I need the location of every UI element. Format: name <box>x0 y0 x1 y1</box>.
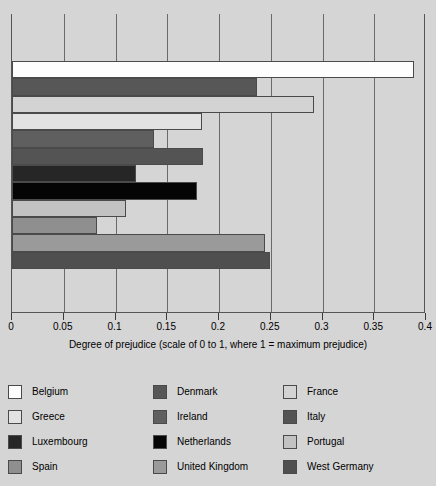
tick-mark <box>218 313 219 320</box>
legend-item-greece[interactable]: Greece <box>8 404 148 429</box>
legend-label: United Kingdom <box>177 461 248 473</box>
legend-swatch-icon <box>153 435 167 449</box>
bar-row <box>12 165 424 182</box>
bar-italy[interactable] <box>12 148 203 165</box>
legend-swatch-icon <box>153 410 167 424</box>
bar-west-germany[interactable] <box>12 252 270 269</box>
x-tick-label: 0.3 <box>315 321 329 333</box>
bar-row <box>12 96 424 113</box>
bar-portugal[interactable] <box>12 200 126 217</box>
bar-row <box>12 61 424 78</box>
bar-netherlands[interactable] <box>12 182 197 199</box>
bar-greece[interactable] <box>12 113 202 130</box>
legend-swatch-icon <box>283 385 297 399</box>
legend-item-italy[interactable]: Italy <box>283 404 423 429</box>
x-tick-label: 0.15 <box>157 321 176 333</box>
bar-ireland[interactable] <box>12 130 154 147</box>
legend-label: West Germany <box>307 461 374 473</box>
legend-item-belgium[interactable]: Belgium <box>8 379 148 404</box>
bar-row <box>12 113 424 130</box>
tick-mark <box>11 313 12 320</box>
legend-item-west-germany[interactable]: West Germany <box>283 454 423 479</box>
bar-denmark[interactable] <box>12 78 257 95</box>
legend-item-ireland[interactable]: Ireland <box>153 404 293 429</box>
x-axis-tick-marks <box>11 313 425 320</box>
x-axis-title: Degree of prejudice (scale of 0 to 1, wh… <box>0 339 436 351</box>
x-tick-label: 0.25 <box>260 321 279 333</box>
x-tick-label: 0.35 <box>364 321 383 333</box>
bar-row <box>12 182 424 199</box>
legend-item-portugal[interactable]: Portugal <box>283 429 423 454</box>
x-tick-label: 0.1 <box>108 321 122 333</box>
legend-swatch-icon <box>8 410 22 424</box>
legend-swatch-icon <box>283 410 297 424</box>
legend-label: Italy <box>307 411 325 423</box>
legend-item-spain[interactable]: Spain <box>8 454 148 479</box>
legend-label: Luxembourg <box>32 436 88 448</box>
bar-row <box>12 217 424 234</box>
bar-row <box>12 78 424 95</box>
prejudice-bar-chart: 00.050.10.150.20.250.30.350.4 Degree of … <box>0 0 436 486</box>
legend-swatch-icon <box>8 385 22 399</box>
bar-row <box>12 200 424 217</box>
x-tick-label: 0.2 <box>211 321 225 333</box>
bar-row <box>12 130 424 147</box>
legend-label: Spain <box>32 461 58 473</box>
legend-item-france[interactable]: France <box>283 379 423 404</box>
legend-item-united-kingdom[interactable]: United Kingdom <box>153 454 293 479</box>
legend-column: DenmarkIrelandNetherlandsUnited Kingdom <box>153 379 293 479</box>
legend-label: France <box>307 386 338 398</box>
tick-mark <box>425 313 426 320</box>
legend-label: Greece <box>32 411 65 423</box>
legend-item-denmark[interactable]: Denmark <box>153 379 293 404</box>
legend-label: Portugal <box>307 436 344 448</box>
bar-belgium[interactable] <box>12 61 414 78</box>
legend-column: FranceItalyPortugalWest Germany <box>283 379 423 479</box>
tick-mark <box>322 313 323 320</box>
tick-mark <box>166 313 167 320</box>
bar-united-kingdom[interactable] <box>12 234 265 251</box>
legend-swatch-icon <box>8 435 22 449</box>
tick-mark <box>115 313 116 320</box>
legend-swatch-icon <box>153 385 167 399</box>
legend-swatch-icon <box>283 435 297 449</box>
bar-series <box>12 61 424 269</box>
legend-label: Belgium <box>32 386 68 398</box>
plot-area <box>11 14 425 313</box>
legend-swatch-icon <box>8 460 22 474</box>
legend-item-luxembourg[interactable]: Luxembourg <box>8 429 148 454</box>
bar-spain[interactable] <box>12 217 97 234</box>
bar-row <box>12 234 424 251</box>
bar-row <box>12 252 424 269</box>
bar-row <box>12 148 424 165</box>
legend-swatch-icon <box>283 460 297 474</box>
tick-mark <box>373 313 374 320</box>
legend-label: Ireland <box>177 411 208 423</box>
bar-luxembourg[interactable] <box>12 165 136 182</box>
x-tick-label: 0 <box>8 321 14 333</box>
legend-label: Netherlands <box>177 436 231 448</box>
bar-france[interactable] <box>12 96 314 113</box>
chart-legend: BelgiumGreeceLuxembourgSpainDenmarkIrela… <box>0 379 436 486</box>
legend-item-netherlands[interactable]: Netherlands <box>153 429 293 454</box>
legend-label: Denmark <box>177 386 218 398</box>
legend-column: BelgiumGreeceLuxembourgSpain <box>8 379 148 479</box>
x-axis-tick-labels: 00.050.10.150.20.250.30.350.4 <box>0 321 436 335</box>
x-tick-label: 0.05 <box>53 321 72 333</box>
tick-mark <box>270 313 271 320</box>
legend-swatch-icon <box>153 460 167 474</box>
x-tick-label: 0.4 <box>418 321 432 333</box>
tick-mark <box>63 313 64 320</box>
